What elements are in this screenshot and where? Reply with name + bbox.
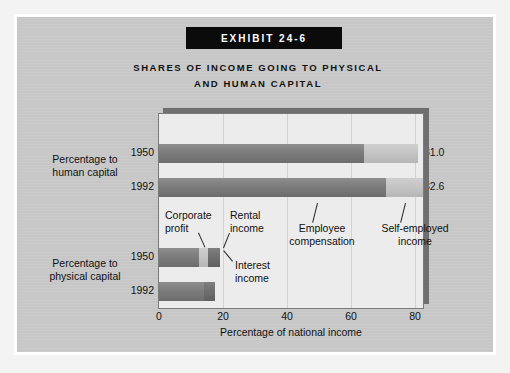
- x-tick-20: 20: [217, 310, 229, 322]
- category-label-human-capital-line2: human capital: [52, 166, 117, 178]
- segment-interest-income: [208, 248, 220, 267]
- callout-rental-income-line2: income: [230, 222, 264, 234]
- category-label-human-capital-line1: Percentage to: [52, 153, 117, 165]
- category-label-physical-capital-line2: physical capital: [49, 270, 120, 282]
- callout-employee-compensation-line2: compensation: [289, 235, 354, 247]
- bar-human-1992[interactable]: [159, 178, 423, 197]
- x-tick-40: 40: [281, 310, 293, 322]
- bar-physical-1992[interactable]: [159, 282, 215, 301]
- segment-self-employed-income: [386, 178, 423, 197]
- exhibit-banner-label: EXHIBIT 24-6: [221, 33, 307, 44]
- segment-employee-compensation: [159, 178, 386, 197]
- callout-self-employed-income: Self-employed income: [367, 222, 463, 247]
- segment-corporate-profit: [159, 282, 204, 301]
- year-label-human-1992: 1992: [114, 177, 154, 196]
- bar-physical-1950[interactable]: [159, 248, 220, 267]
- callout-self-employed-income-line1: Self-employed: [381, 222, 448, 234]
- callout-rental-income: Rental income: [230, 209, 264, 234]
- segment-rental-income: [199, 248, 208, 267]
- segment-employee-compensation: [159, 144, 364, 163]
- category-label-physical-capital: Percentage to physical capital: [25, 257, 145, 283]
- segment-corporate-profit: [159, 248, 199, 267]
- exhibit-panel: EXHIBIT 24-6 SHARES OF INCOME GOING TO P…: [14, 14, 496, 355]
- chart-heading: SHARES OF INCOME GOING TO PHYSICAL AND H…: [17, 60, 496, 92]
- x-axis-title: Percentage of national income: [158, 326, 424, 338]
- category-label-physical-capital-line1: Percentage to: [52, 257, 117, 269]
- chart-heading-line2: AND HUMAN CAPITAL: [17, 76, 496, 92]
- callout-rental-income-line1: Rental: [230, 209, 260, 221]
- segment-self-employed-income: [364, 144, 418, 163]
- x-axis-ticks: 0 20 40 60 80: [158, 310, 424, 324]
- callout-interest-income: Interest income: [235, 259, 270, 284]
- category-label-human-capital: Percentage to human capital: [25, 153, 145, 179]
- callout-employee-compensation: Employee compensation: [276, 222, 368, 247]
- callout-interest-income-line2: income: [235, 272, 269, 284]
- x-tick-60: 60: [345, 310, 357, 322]
- callout-corporate-profit-line2: profit: [165, 222, 188, 234]
- exhibit-banner: EXHIBIT 24-6: [186, 27, 342, 49]
- year-label-physical-1992: 1992: [114, 281, 154, 300]
- callout-interest-income-line1: Interest: [235, 259, 270, 271]
- chart-heading-line1: SHARES OF INCOME GOING TO PHYSICAL: [133, 62, 382, 73]
- segment-interest-income: [204, 282, 215, 301]
- callout-self-employed-income-line2: income: [398, 235, 432, 247]
- callout-employee-compensation-line1: Employee: [299, 222, 346, 234]
- bar-human-1950[interactable]: [159, 144, 418, 163]
- callout-corporate-profit: Corporate profit: [165, 209, 212, 234]
- callout-corporate-profit-line1: Corporate: [165, 209, 212, 221]
- x-tick-0: 0: [156, 310, 162, 322]
- x-tick-80: 80: [409, 310, 421, 322]
